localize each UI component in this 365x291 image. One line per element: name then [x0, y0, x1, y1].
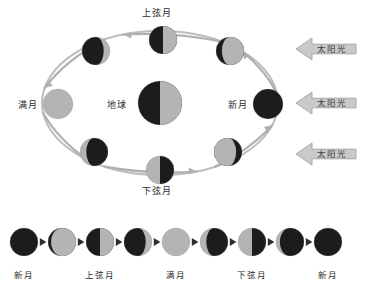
waxing-crescent: [216, 37, 244, 65]
strip-separator-arrow: [192, 238, 199, 246]
strip-separator-arrow: [116, 238, 123, 246]
waxing-gibbous: [82, 37, 110, 65]
earth-label: 地球: [107, 101, 127, 110]
orbit-arrow: [242, 51, 277, 93]
strip-waning-gibbous: [200, 228, 228, 256]
moon-phases-diagram: [0, 0, 365, 291]
strip-label-full-moon: 满月: [152, 271, 200, 280]
sunlight-arrow-middle-label: 太阳光: [317, 99, 347, 108]
full-moon: [43, 89, 73, 119]
strip-full-moon: [162, 228, 190, 256]
phase-strip-group: [10, 228, 342, 256]
last-quarter-label: 下弦月: [142, 187, 172, 196]
earth: [138, 81, 182, 125]
strip-separator-arrow: [40, 238, 47, 246]
first-quarter-label: 上弦月: [142, 9, 172, 18]
strip-waxing-crescent-thin: [48, 228, 76, 256]
earth-group: [138, 81, 182, 125]
strip-separator-arrow: [268, 238, 275, 246]
strip-separator-arrow: [78, 238, 85, 246]
waning-gibbous: [80, 138, 108, 166]
strip-label-new-moon-end: 新月: [304, 271, 352, 280]
strip-separator-arrow: [154, 238, 161, 246]
sunlight-arrow-top-label: 太阳光: [317, 45, 347, 54]
last-quarter: [146, 156, 174, 184]
strip-last-quarter: [238, 228, 266, 256]
sunlight-arrow-bottom-label: 太阳光: [317, 150, 347, 159]
new-moon: [253, 89, 283, 119]
full-moon-label: 满月: [18, 101, 38, 110]
strip-label-last-quarter: 下弦月: [228, 271, 276, 280]
strip-first-quarter: [86, 228, 114, 256]
strip-new-moon-2: [314, 228, 342, 256]
strip-new-moon-1: [10, 228, 38, 256]
new-moon-label: 新月: [228, 101, 248, 110]
first-quarter: [149, 26, 177, 54]
strip-separator-arrow: [230, 238, 237, 246]
strip-separator-arrow: [306, 238, 313, 246]
waning-crescent: [214, 138, 242, 166]
strip-label-first-quarter: 上弦月: [76, 271, 124, 280]
strip-label-new-moon-start: 新月: [0, 271, 48, 280]
strip-waxing-gibbous: [124, 228, 152, 256]
strip-waning-crescent: [276, 228, 304, 256]
